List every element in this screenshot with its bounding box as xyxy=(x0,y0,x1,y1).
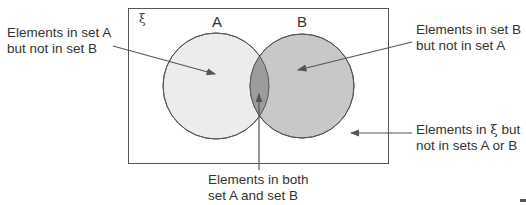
label-a-only-line2: but not in set B xyxy=(7,41,111,57)
label-both: Elements in both set A and set B xyxy=(208,172,309,204)
label-b-only-line2: but not in set A xyxy=(416,38,521,54)
corner-mark xyxy=(520,199,526,202)
xi-symbol: ξ xyxy=(490,121,497,137)
set-a-label: A xyxy=(212,13,222,30)
label-a-only: Elements in set A but not in set B xyxy=(7,25,111,57)
label-both-line1: Elements in both xyxy=(208,172,309,188)
universal-set-symbol: ξ xyxy=(139,12,146,26)
label-outside-post: but xyxy=(498,122,521,137)
label-b-only: Elements in set B but not in set A xyxy=(416,22,521,54)
label-outside: Elements in ξ but not in sets A or B xyxy=(416,121,520,154)
label-outside-pre: Elements in xyxy=(416,122,490,137)
label-both-line2: set A and set B xyxy=(208,188,309,204)
set-b-label: B xyxy=(297,13,307,30)
label-outside-line2: not in sets A or B xyxy=(416,138,520,154)
label-a-only-line1: Elements in set A xyxy=(7,25,111,41)
label-b-only-line1: Elements in set B xyxy=(416,22,521,38)
label-outside-line1: Elements in ξ but xyxy=(416,121,520,138)
